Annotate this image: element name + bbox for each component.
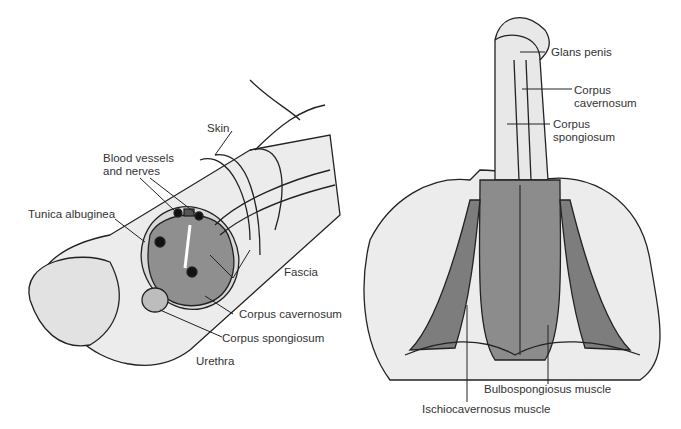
- label-corpus-spongiosum-right-line1: Corpus: [553, 118, 590, 131]
- label-corpus-spongiosum-left: Corpus spongiosum: [222, 332, 324, 345]
- label-corpus-cavernosum-left: Corpus cavernosum: [239, 308, 342, 321]
- label-corpus-spongiosum-right-line2: spongiosum: [553, 131, 615, 144]
- label-fascia: Fascia: [284, 266, 318, 279]
- label-bulbospongiosus-muscle: Bulbospongiosus muscle: [484, 383, 611, 396]
- label-corpus-cavernosum-right-line2: cavernosum: [574, 97, 637, 110]
- left-shaft-drawing: [29, 80, 340, 365]
- label-corpus-cavernosum-right-line1: Corpus: [574, 84, 611, 97]
- label-glans-penis: Glans penis: [551, 46, 612, 59]
- label-skin: Skin: [207, 122, 229, 135]
- label-tunica-albuginea: Tunica albuginea: [28, 208, 115, 221]
- label-blood-vessels-line1: Blood vessels: [103, 152, 174, 165]
- label-blood-vessels-line2: and nerves: [103, 165, 160, 178]
- label-urethra: Urethra: [196, 355, 234, 368]
- right-shaft-drawing: [364, 18, 660, 380]
- label-ischiocavernosus-muscle: Ischiocavernosus muscle: [422, 403, 550, 416]
